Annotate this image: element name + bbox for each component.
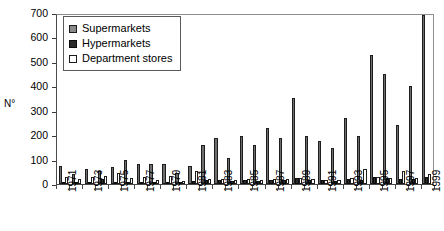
- x-axis-labels: 1971197319751977197919811983198519871989…: [56, 190, 434, 231]
- x-tick-label: 1975: [119, 170, 130, 192]
- x-tick-label: 1989: [301, 170, 312, 192]
- bar-d: [260, 180, 263, 184]
- legend-label: Hypermarkets: [82, 38, 150, 49]
- y-tick-mark: [52, 136, 56, 137]
- y-tick-mark: [52, 63, 56, 64]
- y-tick-label: 100: [14, 156, 48, 165]
- bar-d: [234, 180, 237, 184]
- x-tick-mark: [186, 185, 187, 189]
- x-tick-label: 1971: [67, 170, 78, 192]
- bar-s: [370, 55, 373, 184]
- legend-item: Supermarkets: [69, 21, 172, 36]
- x-tick-label: 1983: [223, 170, 234, 192]
- x-tick-label: 1981: [197, 170, 208, 192]
- bar-d: [104, 176, 107, 184]
- bar-d: [286, 179, 289, 184]
- legend-swatch-hypermarkets-icon: [69, 40, 77, 48]
- bar-group: [303, 15, 316, 184]
- x-tick-mark: [265, 185, 266, 189]
- bar-s: [137, 164, 140, 184]
- y-tick-mark: [52, 87, 56, 88]
- y-tick-mark: [52, 185, 56, 186]
- bar-s: [240, 136, 243, 184]
- x-tick-mark: [108, 185, 109, 189]
- bar-group: [277, 15, 290, 184]
- y-tick-label: 400: [14, 82, 48, 91]
- y-tick-mark: [52, 14, 56, 15]
- x-tick-mark: [160, 185, 161, 189]
- x-tick-label: 1995: [379, 170, 390, 192]
- x-tick-mark: [317, 185, 318, 189]
- bar-chart: N° 0100200300400500600700 19711973197519…: [0, 0, 444, 231]
- y-tick-mark: [52, 38, 56, 39]
- bar-group: [394, 15, 407, 184]
- bar-group: [342, 15, 355, 184]
- y-tick-mark: [52, 112, 56, 113]
- x-tick-label: 1991: [327, 170, 338, 192]
- bar-d: [208, 179, 211, 184]
- x-tick-label: 1987: [275, 170, 286, 192]
- y-axis-ticks: 0100200300400500600700: [2, 0, 48, 231]
- bar-s: [422, 15, 425, 184]
- x-tick-mark: [291, 185, 292, 189]
- x-tick-mark: [82, 185, 83, 189]
- bar-s: [396, 125, 399, 184]
- y-tick-label: 200: [14, 131, 48, 140]
- y-tick-label: 600: [14, 33, 48, 42]
- bar-group: [290, 15, 303, 184]
- x-tick-mark: [134, 185, 135, 189]
- y-tick-label: 0: [14, 180, 48, 189]
- x-tick-mark: [238, 185, 239, 189]
- bar-group: [368, 15, 381, 184]
- x-tick-label: 1973: [93, 170, 104, 192]
- legend-item: Department stores: [69, 51, 172, 66]
- x-tick-mark: [421, 185, 422, 189]
- bar-group: [316, 15, 329, 184]
- x-tick-label: 1993: [353, 170, 364, 192]
- bar-group: [381, 15, 394, 184]
- bar-group: [226, 15, 239, 184]
- bar-s: [266, 128, 269, 184]
- y-tick-label: 700: [14, 9, 48, 18]
- legend-swatch-department-stores-icon: [69, 55, 77, 63]
- legend-label: Supermarkets: [82, 23, 150, 34]
- bar-s: [318, 141, 321, 184]
- bar-group: [329, 15, 342, 184]
- bar-group: [187, 15, 200, 184]
- y-tick-label: 500: [14, 58, 48, 67]
- x-tick-mark: [212, 185, 213, 189]
- x-tick-mark: [343, 185, 344, 189]
- bar-group: [355, 15, 368, 184]
- x-tick-mark: [56, 185, 57, 189]
- bar-s: [292, 98, 295, 184]
- bar-s: [383, 74, 386, 184]
- legend-item: Hypermarkets: [69, 36, 172, 51]
- bar-s: [344, 118, 347, 184]
- bar-group: [200, 15, 213, 184]
- bar-s: [214, 138, 217, 184]
- legend-label: Department stores: [82, 53, 172, 64]
- y-tick-mark: [52, 161, 56, 162]
- x-tick-label: 1979: [171, 170, 182, 192]
- bar-group: [239, 15, 252, 184]
- x-tick-mark: [395, 185, 396, 189]
- bar-group: [265, 15, 278, 184]
- x-tick-label: 1997: [405, 170, 416, 192]
- bar-d: [130, 178, 133, 184]
- bar-group: [213, 15, 226, 184]
- y-tick-label: 300: [14, 107, 48, 116]
- x-tick-label: 1977: [145, 170, 156, 192]
- bar-group: [252, 15, 265, 184]
- bar-group: [420, 15, 433, 184]
- legend-swatch-supermarkets-icon: [69, 25, 77, 33]
- x-tick-label: 1999: [431, 170, 442, 192]
- chart-legend: Supermarkets Hypermarkets Department sto…: [63, 16, 181, 71]
- bar-d: [156, 180, 159, 184]
- bar-d: [78, 179, 81, 184]
- x-tick-label: 1985: [249, 170, 260, 192]
- bar-group: [407, 15, 420, 184]
- bar-d: [182, 181, 185, 184]
- x-tick-mark: [369, 185, 370, 189]
